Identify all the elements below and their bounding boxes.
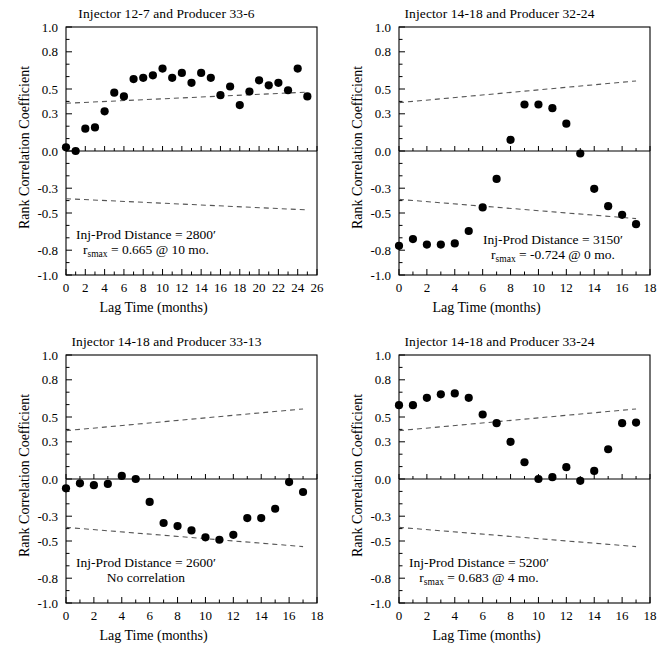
annotation-rsmax: No correlation — [76, 570, 216, 585]
data-point — [534, 475, 542, 483]
x-tick-label: 8 — [140, 280, 147, 295]
data-point — [409, 401, 417, 409]
data-point — [562, 463, 570, 471]
y-tick-label: -0.5 — [370, 534, 391, 549]
data-point — [245, 87, 253, 95]
data-point — [101, 107, 109, 115]
data-point — [187, 526, 195, 534]
annotation-rsmax: rsmax = 0.665 @ 10 mo. — [76, 242, 216, 260]
data-point — [294, 64, 302, 72]
data-point — [618, 419, 626, 427]
annotation-distance: Inj-Prod Distance = 2800′ — [76, 227, 216, 242]
data-point — [129, 75, 137, 83]
upper-confidence-line — [66, 92, 307, 103]
data-point — [146, 498, 154, 506]
y-tick-label: -0.3 — [370, 509, 391, 524]
data-point — [178, 69, 186, 77]
panel-annotation: Inj-Prod Distance = 2600′No correlation — [76, 555, 216, 585]
data-point — [62, 484, 70, 492]
data-point — [215, 536, 223, 544]
y-tick-label: 1.0 — [42, 348, 58, 363]
y-tick-label: 0.5 — [375, 82, 391, 97]
x-axis-label: Lag Time (months) — [361, 628, 612, 644]
data-point — [465, 227, 473, 235]
data-point — [395, 242, 403, 250]
data-point — [257, 514, 265, 522]
x-tick-label: 8 — [507, 280, 514, 295]
y-tick-label: -1.0 — [370, 268, 391, 283]
panel-top-right: Injector 14-18 and Producer 32-24 1.00.8… — [333, 0, 666, 328]
x-tick-label: 6 — [146, 608, 153, 623]
data-point — [120, 92, 128, 100]
annotation-distance: Inj-Prod Distance = 5200′ — [409, 555, 549, 570]
annotation-distance: Inj-Prod Distance = 3150′ — [483, 232, 623, 247]
figure-four-panel-correlation: Injector 12-7 and Producer 33-6 1.00.80.… — [0, 0, 666, 656]
y-tick-label: 0.0 — [42, 144, 58, 159]
x-tick-label: 12 — [560, 280, 573, 295]
y-axis-label: Rank Correlation Coefficient — [17, 394, 33, 557]
y-axis-label: Rank Correlation Coefficient — [17, 66, 33, 229]
upper-confidence-line — [399, 81, 636, 103]
data-point — [173, 522, 181, 530]
data-point — [604, 445, 612, 453]
data-point — [132, 475, 140, 483]
data-point — [604, 202, 612, 210]
y-tick-label: 0.5 — [42, 410, 58, 425]
data-point — [632, 418, 640, 426]
data-point — [465, 394, 473, 402]
x-tick-label: 2 — [424, 280, 431, 295]
y-tick-label: 0.3 — [42, 106, 58, 121]
x-tick-label: 20 — [253, 280, 266, 295]
x-axis-label: Lag Time (months) — [28, 300, 279, 316]
data-point — [285, 478, 293, 486]
data-point — [632, 220, 640, 228]
y-tick-label: 0.3 — [375, 434, 391, 449]
x-tick-label: 14 — [195, 280, 209, 295]
data-point — [576, 149, 584, 157]
data-point — [479, 410, 487, 418]
rsmax-subscript: smax — [424, 577, 444, 587]
x-tick-label: 0 — [396, 608, 403, 623]
data-point — [562, 120, 570, 128]
y-tick-label: 1.0 — [42, 20, 58, 35]
data-point — [299, 488, 307, 496]
x-tick-label: 10 — [156, 280, 169, 295]
data-point — [149, 71, 157, 79]
panel-annotation: Inj-Prod Distance = 5200′rsmax = 0.683 @… — [409, 555, 549, 588]
y-tick-label: 0.5 — [375, 410, 391, 425]
x-tick-label: 4 — [101, 280, 108, 295]
data-point — [62, 143, 70, 151]
data-point — [395, 401, 403, 409]
data-point — [520, 458, 528, 466]
data-point — [271, 505, 279, 513]
data-point — [274, 79, 282, 87]
data-point — [520, 100, 528, 108]
x-tick-label: 4 — [452, 608, 459, 623]
data-point — [168, 74, 176, 82]
x-tick-label: 12 — [560, 608, 573, 623]
y-tick-label: -0.5 — [370, 206, 391, 221]
data-point — [548, 473, 556, 481]
rsmax-value: = -0.724 @ 0 mo. — [516, 247, 615, 262]
y-axis-label: Rank Correlation Coefficient — [350, 66, 366, 229]
data-point — [118, 472, 126, 480]
data-point — [72, 147, 80, 155]
data-point — [303, 92, 311, 100]
data-point — [90, 481, 98, 489]
x-tick-label: 22 — [272, 280, 285, 295]
x-tick-label: 16 — [214, 280, 228, 295]
lower-confidence-line — [399, 527, 636, 546]
upper-confidence-line — [66, 409, 303, 431]
data-point — [493, 419, 501, 427]
rsmax-value: = 0.683 @ 4 mo. — [444, 570, 539, 585]
y-tick-label: -0.5 — [37, 534, 58, 549]
x-tick-label: 8 — [174, 608, 181, 623]
x-tick-label: 10 — [532, 608, 545, 623]
data-point — [409, 235, 417, 243]
y-tick-label: 0.5 — [42, 82, 58, 97]
data-point — [506, 136, 514, 144]
x-tick-label: 18 — [644, 608, 657, 623]
data-point — [104, 480, 112, 488]
x-tick-label: 10 — [532, 280, 545, 295]
panel-annotation: Inj-Prod Distance = 2800′rsmax = 0.665 @… — [76, 227, 216, 260]
